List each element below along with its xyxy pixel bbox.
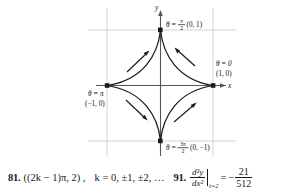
svg-text:(0, 1): (0, 1) — [187, 21, 203, 29]
astroid-figure: x y θ = π 2 (0, 1) θ = 0 (1, 0) θ = π (−… — [0, 0, 299, 162]
direction-arrows — [126, 48, 197, 122]
svg-text:(1, 0): (1, 0) — [216, 70, 232, 78]
value-fraction: 21 512 — [235, 167, 252, 189]
label-theta-pi-over-2: θ = π 2 (0, 1) — [166, 18, 203, 31]
svg-text:θ =: θ = — [166, 144, 176, 152]
point-top — [158, 28, 163, 33]
answer-91-expression: d²y dx² t=2 = − 21 512 — [190, 167, 252, 189]
answer-91-number: 91. — [173, 172, 186, 183]
answer-81-number: 81. — [8, 172, 21, 183]
point-left — [105, 83, 110, 88]
svg-text:3π: 3π — [180, 141, 186, 147]
x-axis-label: x — [227, 81, 232, 90]
svg-text:2: 2 — [182, 148, 185, 154]
svg-text:θ = π: θ = π — [88, 90, 104, 98]
equals-sign: = — [220, 172, 226, 183]
label-theta-pi: θ = π (−1, 0) — [85, 90, 105, 108]
answers-row: 81. ((2k − 1)π, 2) , k = 0, ±1, ±2, … 91… — [0, 160, 299, 195]
svg-text:π: π — [180, 18, 183, 24]
evaluation-bar — [207, 169, 208, 186]
answer-81: 81. ((2k − 1)π, 2) , k = 0, ±1, ±2, … — [8, 172, 164, 183]
second-derivative-fraction: d²y dx² — [190, 168, 205, 188]
second-derivative-denominator: dx² — [190, 178, 205, 188]
svg-text:2: 2 — [180, 25, 183, 31]
label-theta-3pi-over-2: θ = 3π 2 (0, −1) — [166, 141, 210, 154]
answer-81-condition: k = 0, ±1, ±2, … — [95, 172, 165, 183]
svg-text:(0, −1): (0, −1) — [190, 144, 210, 152]
svg-text:θ = 0: θ = 0 — [216, 60, 232, 68]
evaluation-subscript: t=2 — [209, 182, 218, 189]
point-bottom — [158, 139, 163, 144]
svg-text:θ =: θ = — [166, 21, 176, 29]
answer-91: 91. d²y dx² t=2 = − 21 512 — [173, 167, 252, 189]
label-theta-zero: θ = 0 (1, 0) — [216, 60, 232, 78]
minus-sign: − — [228, 172, 234, 183]
answer-81-expression: ((2k − 1)π, 2) , — [24, 172, 86, 183]
value-numerator: 21 — [238, 167, 250, 178]
point-right — [211, 83, 216, 88]
svg-text:(−1, 0): (−1, 0) — [85, 100, 105, 108]
second-derivative-numerator: d²y — [190, 168, 205, 178]
y-axis-label: y — [154, 3, 159, 12]
value-denominator: 512 — [235, 178, 252, 189]
